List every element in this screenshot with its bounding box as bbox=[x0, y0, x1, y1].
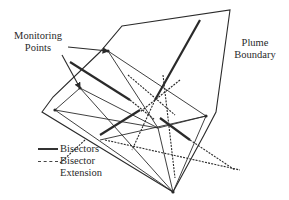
triangulation-line bbox=[158, 128, 173, 192]
monitoring-point bbox=[204, 114, 207, 117]
monitoring-points-label: Monitoring Points bbox=[8, 30, 68, 54]
triangulation-line bbox=[55, 110, 158, 128]
monitoring-label-line1: Monitoring bbox=[8, 30, 68, 42]
legend-item-extension-cont: Extension bbox=[38, 167, 102, 179]
legend-label: Extension bbox=[60, 167, 102, 179]
triangulation-line bbox=[173, 116, 206, 192]
plume-label-line2: Boundary bbox=[225, 49, 285, 61]
legend-label: Bisector bbox=[60, 155, 95, 167]
dashed-line-swatch-icon bbox=[38, 161, 58, 162]
bisector-extension-line bbox=[190, 140, 235, 170]
pointer-arrow-icon bbox=[62, 55, 80, 88]
bisector-extension-line bbox=[105, 140, 240, 170]
legend-item-bisector-extension: Bisector bbox=[38, 155, 102, 167]
monitoring-point bbox=[53, 108, 56, 111]
solid-line-swatch-icon bbox=[38, 148, 58, 150]
monitoring-label-line2: Points bbox=[8, 42, 68, 54]
bisector-extension-line bbox=[140, 80, 180, 112]
bisector-line bbox=[70, 62, 130, 100]
legend-label: Bisectors bbox=[60, 143, 99, 155]
bisector-line bbox=[155, 20, 200, 100]
monitoring-point bbox=[106, 49, 109, 52]
bisector-extension-line bbox=[128, 75, 175, 115]
legend: Bisectors Bisector Extension bbox=[38, 143, 102, 179]
monitoring-point bbox=[171, 190, 174, 193]
monitoring-point bbox=[78, 86, 81, 89]
plume-boundary-label: Plume Boundary bbox=[225, 37, 285, 61]
legend-item-bisectors: Bisectors bbox=[38, 143, 102, 155]
plume-label-line1: Plume bbox=[225, 37, 285, 49]
triangulation-line bbox=[108, 51, 206, 116]
bisector-line bbox=[100, 110, 140, 135]
